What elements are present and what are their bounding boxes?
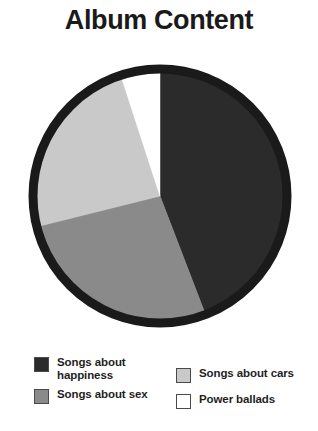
chart-legend: Songs about happiness Songs about sex So… <box>34 356 296 418</box>
legend-item-label: Power ballads <box>199 393 275 406</box>
legend-item-songs-about-happiness[interactable]: Songs about happiness <box>34 356 174 382</box>
legend-column-right: Songs about cars Power ballads <box>176 356 306 419</box>
legend-item-songs-about-cars[interactable]: Songs about cars <box>176 367 306 385</box>
legend-item-songs-about-sex[interactable]: Songs about sex <box>34 388 174 406</box>
legend-item-label: Songs about sex <box>57 388 148 401</box>
page-title: Album Content <box>0 4 318 36</box>
legend-item-label: Songs about happiness <box>57 356 174 382</box>
pie-chart-svg <box>26 60 294 332</box>
legend-item-label: Songs about cars <box>199 367 294 380</box>
legend-swatch-icon <box>34 357 49 372</box>
legend-item-power-ballads[interactable]: Power ballads <box>176 393 306 411</box>
legend-swatch-icon <box>34 389 49 404</box>
pie-chart <box>26 60 294 332</box>
chart-page: Album Content Songs about happiness Song… <box>0 0 318 431</box>
legend-column-left: Songs about happiness Songs about sex <box>34 356 174 414</box>
legend-swatch-icon <box>176 394 191 409</box>
legend-swatch-icon <box>176 368 191 383</box>
